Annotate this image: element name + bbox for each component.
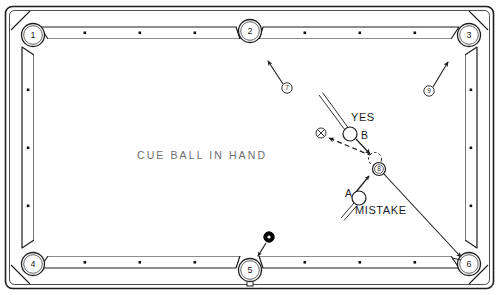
diamond-bottom-1 — [84, 261, 87, 264]
diamond-top-2 — [139, 32, 142, 35]
object-ball-7-label: 7 — [285, 84, 289, 91]
yes-label: YES — [351, 112, 375, 123]
diamond-top-1 — [84, 32, 87, 35]
diamond-bottom-6 — [414, 261, 417, 264]
diamond-top-6 — [414, 32, 417, 35]
eight-ball: 8 — [373, 163, 386, 176]
diamond-right-2 — [470, 147, 473, 150]
diamond-bottom-4 — [304, 261, 307, 264]
pocket-2-label: 2 — [247, 26, 252, 36]
pocket-2[interactable]: 2 — [239, 20, 262, 43]
pocket-4[interactable]: 4 — [22, 253, 45, 276]
diamond-top-4 — [304, 32, 307, 35]
pocket-3[interactable]: 3 — [458, 24, 481, 47]
cue-ball-in-hand-label: CUE BALL IN HAND — [137, 150, 267, 161]
diamond-top-3 — [194, 32, 197, 35]
cue-ball-b — [343, 127, 357, 141]
diamond-bottom-2 — [139, 261, 142, 264]
diamond-bottom-5 — [359, 261, 362, 264]
pocket-5-label: 5 — [247, 265, 252, 275]
diamond-left-3 — [27, 205, 30, 208]
pocket-6-label: 6 — [466, 259, 471, 269]
pocket-1[interactable]: 1 — [22, 24, 45, 47]
object-ball-9-label: 9 — [427, 87, 431, 94]
diamond-right-1 — [470, 89, 473, 92]
diamond-left-2 — [27, 147, 30, 150]
cue-ball-a — [352, 191, 366, 205]
diamond-top-5 — [359, 32, 362, 35]
pool-table-diagram: 1 2 3 4 5 — [0, 0, 499, 295]
playing-surface — [34, 39, 465, 256]
x-mark — [316, 128, 326, 138]
pocket-1-label: 1 — [30, 30, 35, 40]
mistake-label: MISTAKE — [355, 205, 407, 216]
ball-b-label: B — [361, 130, 368, 141]
diamond-left-1 — [27, 89, 30, 92]
ball-a-label: A — [345, 188, 352, 199]
black-ball — [264, 232, 274, 242]
pocket-6[interactable]: 6 — [458, 253, 481, 276]
pocket-3-label: 3 — [466, 30, 471, 40]
diamond-bottom-3 — [194, 261, 197, 264]
diamond-right-3 — [470, 205, 473, 208]
eight-ball-label: 8 — [377, 165, 381, 172]
table-graphic: 1 2 3 4 5 — [0, 0, 499, 295]
pocket-4-label: 4 — [30, 259, 35, 269]
